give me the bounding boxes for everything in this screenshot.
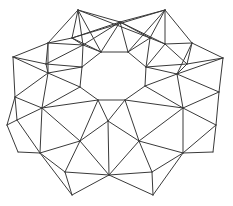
mesh-edge	[213, 125, 216, 152]
mesh-edges	[7, 10, 223, 195]
mesh-edge	[18, 152, 40, 153]
mesh-edge	[128, 52, 146, 67]
mesh-edge	[15, 97, 42, 108]
mesh-edge	[7, 97, 15, 125]
mesh-edge	[145, 67, 146, 86]
mesh-edge	[98, 100, 108, 121]
mesh-edge	[13, 43, 48, 57]
mesh-edge	[72, 175, 109, 195]
mesh-edge	[48, 67, 82, 73]
mesh-edge	[72, 22, 120, 38]
mesh-edge	[80, 141, 109, 175]
mesh-edge	[46, 45, 83, 64]
mesh-edge	[120, 22, 128, 52]
mesh-edge	[7, 125, 18, 152]
mesh-edge	[82, 45, 83, 67]
mesh-edge	[120, 22, 165, 44]
mesh-edge	[150, 38, 165, 44]
wireframe-torus-mesh	[0, 0, 233, 206]
mesh-edge	[165, 10, 192, 43]
mesh-edge	[165, 43, 192, 44]
mesh-edge	[145, 86, 183, 108]
mesh-edge	[42, 73, 48, 108]
mesh-edge	[72, 10, 78, 38]
mesh-edge	[108, 121, 109, 175]
mesh-edge	[42, 108, 80, 141]
mesh-edge	[139, 108, 183, 141]
mesh-edge	[128, 10, 165, 52]
mesh-edge	[48, 43, 83, 45]
mesh-edge	[183, 125, 216, 153]
mesh-edge	[80, 87, 98, 100]
mesh-edge	[183, 108, 216, 125]
mesh-edge	[125, 100, 139, 141]
mesh-edge	[216, 92, 219, 125]
mesh-edge	[109, 172, 152, 175]
mesh-edge	[13, 57, 15, 97]
mesh-edge	[80, 67, 82, 87]
mesh-edge	[15, 73, 48, 97]
mesh-edge	[219, 58, 223, 92]
mesh-edge	[65, 141, 80, 172]
mesh-edge	[139, 141, 152, 172]
mesh-edge	[187, 58, 223, 64]
mesh-edge	[46, 64, 82, 67]
mesh-edge	[152, 172, 153, 195]
mesh-edge	[17, 120, 40, 153]
mesh-edge	[109, 175, 153, 195]
mesh-edge	[139, 141, 183, 153]
mesh-edge	[177, 74, 219, 92]
mesh-edge	[125, 86, 145, 100]
mesh-edge	[13, 57, 46, 64]
mesh-edge	[40, 153, 72, 195]
mesh-edge	[42, 100, 98, 108]
mesh-edge	[153, 153, 183, 195]
mesh-edge	[183, 152, 213, 153]
mesh-edge	[108, 100, 125, 121]
mesh-edge	[17, 108, 42, 120]
mesh-edge	[125, 100, 183, 108]
mesh-edge	[40, 141, 80, 153]
mesh-edge	[65, 172, 109, 175]
mesh-edge	[65, 172, 72, 195]
mesh-edge	[108, 121, 139, 141]
mesh-edge	[48, 73, 80, 87]
mesh-edge	[192, 43, 223, 58]
mesh-edge	[13, 57, 48, 73]
mesh-edge	[145, 74, 177, 86]
mesh-edge	[40, 108, 42, 153]
mesh-edge	[78, 10, 120, 22]
mesh-edge	[146, 67, 177, 74]
mesh-edge	[183, 92, 219, 108]
mesh-edge	[177, 74, 183, 108]
mesh-edge	[15, 97, 17, 120]
mesh-edge	[187, 43, 192, 64]
mesh-edge	[109, 141, 139, 175]
mesh-edge	[152, 153, 183, 172]
mesh-edge	[82, 52, 101, 67]
